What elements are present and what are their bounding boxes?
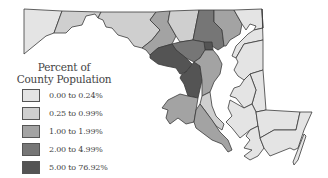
legend-label: 0.25 to 0.99%	[49, 109, 103, 118]
legend-swatch-2	[22, 125, 40, 138]
legend-title-line1: Percent of	[12, 61, 116, 73]
map-legend: Percent of County Population 0.00 to 0.2…	[12, 61, 132, 176]
legend-label: 5.00 to 76.92%	[49, 163, 108, 172]
legend-title: Percent of County Population	[12, 61, 116, 85]
legend-swatch-1	[22, 107, 40, 120]
legend-label: 1.00 to 1.99%	[49, 127, 103, 136]
legend-swatch-4	[22, 161, 40, 174]
legend-swatch-0	[22, 89, 40, 102]
legend-item-1: 0.25 to 0.99%	[22, 104, 132, 122]
legend-item-2: 1.00 to 1.99%	[22, 122, 132, 140]
legend-item-0: 0.00 to 0.24%	[22, 86, 132, 104]
legend-title-line2: County Population	[12, 73, 116, 85]
legend-swatch-3	[22, 143, 40, 156]
legend-item-3: 2.00 to 4.99%	[22, 140, 132, 158]
legend-label: 0.00 to 0.24%	[49, 91, 103, 100]
legend-label: 2.00 to 4.99%	[49, 145, 103, 154]
county-allegany	[54, 11, 101, 33]
county-charles	[162, 94, 198, 124]
legend-item-4: 5.00 to 76.92%	[22, 158, 132, 176]
county-baltimore-city	[204, 42, 213, 50]
